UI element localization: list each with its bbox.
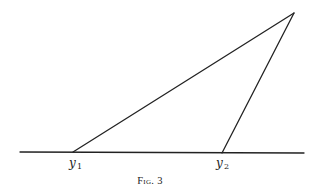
vertex-label-y2: y 2 bbox=[215, 156, 229, 171]
figure-diagram: y 1 y 2 Fig. 3 bbox=[0, 0, 315, 194]
vertex-label-y2-subscript: 2 bbox=[224, 162, 229, 171]
side-y1-to-apex bbox=[73, 13, 294, 152]
side-y2-to-apex bbox=[222, 13, 294, 153]
vertex-label-y2-base: y bbox=[215, 156, 223, 170]
vertex-label-y1: y 1 bbox=[68, 156, 82, 171]
base-line bbox=[20, 152, 304, 153]
vertex-label-y1-base: y bbox=[68, 156, 76, 170]
vertex-label-y1-subscript: 1 bbox=[77, 162, 82, 171]
figure-caption: Fig. 3 bbox=[137, 175, 163, 186]
